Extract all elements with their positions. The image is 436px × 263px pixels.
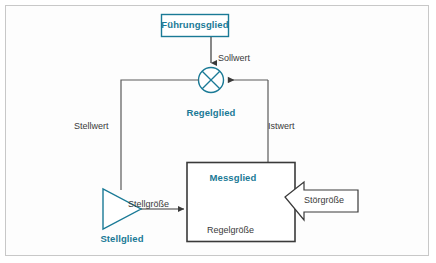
control-loop-diagram <box>0 0 436 263</box>
signal-label-stoergroesse: Störgröße <box>304 196 344 205</box>
block-label-fuehrungsglied: Führungsglied <box>161 20 228 30</box>
signal-label-stellwert: Stellwert <box>74 122 109 131</box>
signal-label-stellgroesse: Stellgröße <box>128 200 169 209</box>
signal-label-regelgroesse: Regelgröße <box>207 226 254 235</box>
block-label-messglied: Messglied <box>210 173 257 183</box>
signal-label-istwert: Istwert <box>268 122 295 131</box>
diagram-page: Führungsglied Regelglied Messglied Stell… <box>0 0 436 263</box>
block-label-regelglied: Regelglied <box>186 108 235 118</box>
signal-label-sollwert: Sollwert <box>218 54 250 63</box>
block-label-stellglied: Stellglied <box>100 234 143 244</box>
block-stellglied[interactable] <box>103 189 141 229</box>
